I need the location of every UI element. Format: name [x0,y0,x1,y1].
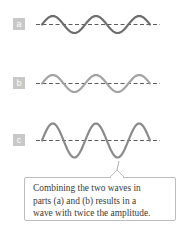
callout-pointer-cover [0,0,183,226]
